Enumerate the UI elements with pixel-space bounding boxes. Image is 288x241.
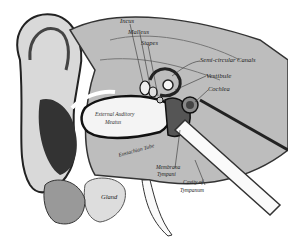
label-malleus: Malleus [128, 29, 149, 36]
label-vestibule: Vestibule [206, 73, 231, 80]
label-cavity-line1: Cavity of [183, 180, 203, 186]
label-gland: Gland [101, 194, 117, 201]
label-membrana-line2: Tympani [157, 172, 176, 178]
label-cavity-line2: Tympanum [180, 188, 204, 194]
label-membrana-line1: Membrana [156, 165, 180, 171]
ear-illustration [0, 0, 288, 241]
label-incus: Incus [120, 18, 134, 25]
label-meatus-line2: Meatus [105, 120, 121, 126]
label-cochlea: Cochlea [208, 86, 230, 93]
ear-anatomy-figure: Incus Malleus Stapes Semi-circular Canal… [0, 0, 288, 241]
label-stapes: Stapes [141, 40, 158, 47]
label-meatus-line1: External Auditory [95, 112, 134, 118]
label-semicircular-canals: Semi-circular Canals [200, 57, 256, 64]
